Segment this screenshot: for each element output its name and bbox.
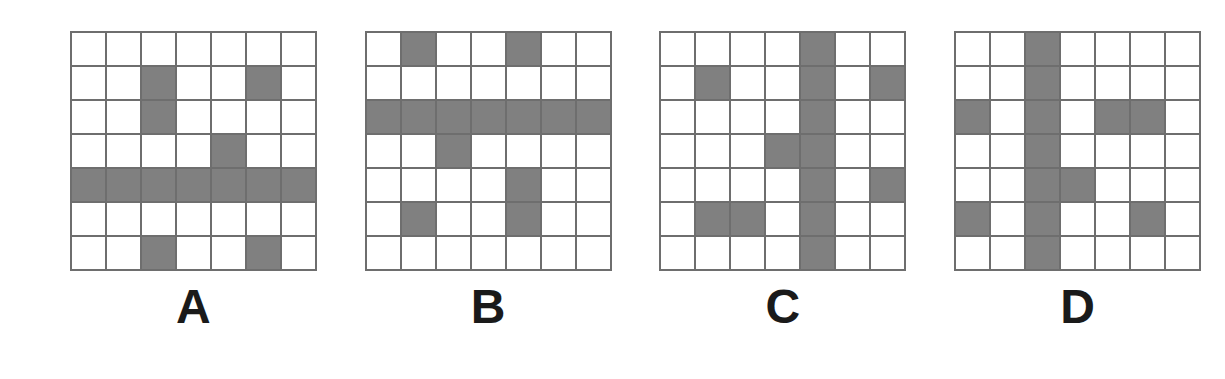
grid-row — [955, 134, 1200, 168]
grid-cell-r3-c3-filled — [141, 100, 176, 134]
grid-cell-r5-c7-filled — [870, 168, 905, 202]
grid-cell-r4-c1-empty — [366, 134, 401, 168]
grid-panel-d: D — [930, 0, 1225, 331]
grid-cell-r4-c7-empty — [1165, 134, 1200, 168]
grid-row — [71, 134, 316, 168]
grid-cell-r2-c5-empty — [506, 66, 541, 100]
grid-cell-r7-c3-filled — [1025, 236, 1060, 270]
grid-cell-r4-c4-filled — [765, 134, 800, 168]
grid-cell-r5-c4-filled — [176, 168, 211, 202]
grid-cell-r1-c2-empty — [990, 32, 1025, 66]
grid-row — [660, 32, 905, 66]
grid-cell-r1-c3-empty — [436, 32, 471, 66]
grid-cell-r3-c6-empty — [835, 100, 870, 134]
grid-cell-r1-c1-empty — [71, 32, 106, 66]
grid-cell-r6-c1-empty — [366, 202, 401, 236]
grid-cell-r6-c4-empty — [176, 202, 211, 236]
grid-cell-r7-c3-empty — [436, 236, 471, 270]
grid-cell-r6-c2-empty — [106, 202, 141, 236]
grid-cell-r4-c2-empty — [990, 134, 1025, 168]
grid-cell-r6-c1-empty — [660, 202, 695, 236]
grid-cell-r4-c5-empty — [1095, 134, 1130, 168]
grid-cell-r2-c2-empty — [401, 66, 436, 100]
grid-row — [955, 168, 1200, 202]
grid-cell-r3-c7-empty — [1165, 100, 1200, 134]
panel-label: A — [176, 283, 211, 331]
grid-panel-b: B — [341, 0, 636, 331]
grid-cell-r7-c5-empty — [211, 236, 246, 270]
grid-cell-r3-c3-empty — [730, 100, 765, 134]
grid-cell-r6-c5-filled — [506, 202, 541, 236]
grid-cell-r2-c3-filled — [1025, 66, 1060, 100]
grid-cell-r1-c5-filled — [800, 32, 835, 66]
grid-cell-r1-c4-empty — [471, 32, 506, 66]
grid-cell-r5-c2-empty — [990, 168, 1025, 202]
grid-cell-r7-c5-empty — [506, 236, 541, 270]
grid-cell-r1-c4-empty — [176, 32, 211, 66]
grid-row — [955, 100, 1200, 134]
grid-cell-r2-c4-empty — [176, 66, 211, 100]
grid-d — [954, 31, 1201, 271]
grid-panel-a: A — [46, 0, 341, 331]
grid-cell-r1-c1-empty — [366, 32, 401, 66]
grid-cell-r4-c6-empty — [541, 134, 576, 168]
grid-cell-r3-c3-filled — [1025, 100, 1060, 134]
grid-cell-r2-c5-empty — [1095, 66, 1130, 100]
panel-label: D — [1060, 283, 1095, 331]
grid-cell-r2-c2-empty — [106, 66, 141, 100]
grid-cell-r7-c6-empty — [835, 236, 870, 270]
grid-cell-r4-c4-empty — [176, 134, 211, 168]
grid-cell-r2-c6-empty — [541, 66, 576, 100]
grid-cell-r6-c4-empty — [1060, 202, 1095, 236]
grid-cell-r7-c1-empty — [366, 236, 401, 270]
grid-cell-r7-c3-filled — [141, 236, 176, 270]
grid-cell-r3-c5-filled — [506, 100, 541, 134]
grid-cell-r4-c6-empty — [246, 134, 281, 168]
grid-cell-r5-c1-filled — [71, 168, 106, 202]
grid-cell-r4-c3-empty — [730, 134, 765, 168]
grid-cell-r5-c2-empty — [695, 168, 730, 202]
grid-cell-r2-c7-empty — [576, 66, 611, 100]
grid-cell-r1-c5-empty — [1095, 32, 1130, 66]
grid-cell-r6-c7-empty — [1165, 202, 1200, 236]
grid-cell-r7-c1-empty — [71, 236, 106, 270]
grid-cell-r7-c4-empty — [1060, 236, 1095, 270]
grid-row — [660, 202, 905, 236]
grid-row — [366, 168, 611, 202]
grid-cell-r1-c5-empty — [211, 32, 246, 66]
grid-cell-r5-c6-empty — [1130, 168, 1165, 202]
grid-cell-r4-c7-empty — [576, 134, 611, 168]
grid-cell-r6-c7-empty — [281, 202, 316, 236]
grid-cell-r2-c5-empty — [211, 66, 246, 100]
grid-cell-r6-c4-empty — [765, 202, 800, 236]
grid-cell-r5-c4-empty — [471, 168, 506, 202]
grid-cell-r5-c5-filled — [211, 168, 246, 202]
panel-label: C — [766, 283, 801, 331]
grid-cell-r2-c3-empty — [436, 66, 471, 100]
grid-cell-r2-c5-filled — [800, 66, 835, 100]
grid-cell-r6-c3-empty — [141, 202, 176, 236]
grid-cell-r2-c3-empty — [730, 66, 765, 100]
grid-cell-r7-c4-empty — [765, 236, 800, 270]
grid-cell-r4-c5-filled — [211, 134, 246, 168]
grid-cell-r2-c1-empty — [660, 66, 695, 100]
grid-cell-r6-c2-filled — [401, 202, 436, 236]
grid-cell-r4-c1-empty — [71, 134, 106, 168]
grid-cell-r4-c2-empty — [695, 134, 730, 168]
grid-table — [70, 31, 317, 271]
grid-cell-r3-c1-empty — [660, 100, 695, 134]
grid-cell-r3-c4-empty — [1060, 100, 1095, 134]
grid-row — [366, 236, 611, 270]
grid-cell-r2-c6-empty — [835, 66, 870, 100]
grid-cell-r4-c3-filled — [436, 134, 471, 168]
grid-row — [660, 100, 905, 134]
grid-table — [365, 31, 612, 271]
grid-row — [366, 202, 611, 236]
grid-cell-r3-c6-filled — [1130, 100, 1165, 134]
grid-cell-r7-c2-empty — [695, 236, 730, 270]
grid-cell-r5-c4-filled — [1060, 168, 1095, 202]
grid-cell-r1-c6-empty — [246, 32, 281, 66]
grid-cell-r1-c7-empty — [870, 32, 905, 66]
grid-cell-r2-c2-filled — [695, 66, 730, 100]
grid-cell-r3-c3-filled — [436, 100, 471, 134]
